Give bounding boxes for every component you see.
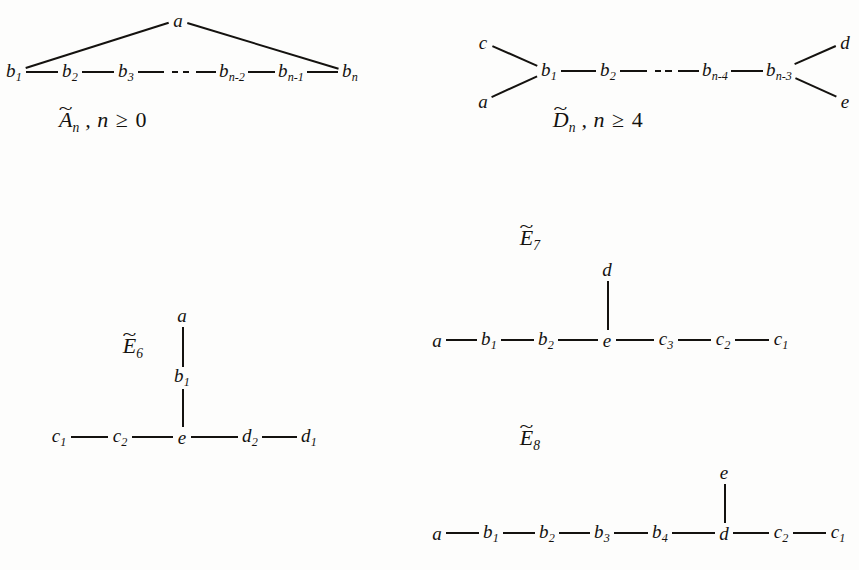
diagram-label-subscript: 8 — [533, 438, 540, 453]
node-label-base: b — [483, 521, 493, 542]
node-label-subscript: 2 — [782, 531, 788, 545]
node-label-subscript: 3 — [604, 531, 610, 545]
diagram-E8-tilde: edab1b2b3b4c2c1~E8 — [0, 0, 859, 570]
edge-E8-tilde-a-b1 — [446, 532, 479, 534]
node-label-subscript: 1 — [839, 531, 845, 545]
node-label-base: b — [652, 521, 662, 542]
node-E8-tilde-c2: c2 — [774, 522, 789, 544]
diagram-label-E8-tilde: ~E8 — [520, 427, 540, 452]
node-label-subscript: 2 — [549, 531, 555, 545]
node-E8-tilde-a: a — [432, 524, 442, 543]
node-E8-tilde-b1: b1 — [483, 522, 499, 544]
node-E8-tilde-c1: c1 — [831, 522, 846, 544]
node-label-base: b — [594, 521, 604, 542]
edge-E8-tilde-c2-c1 — [793, 532, 826, 534]
dynkin-diagram-figure: ab1b2b3bn-2bn-1bn~An , n ≥ 0cab1b2bn-4bn… — [0, 0, 859, 570]
node-label-base: c — [774, 521, 783, 542]
tilde-accent-group: ~E — [520, 427, 533, 449]
edge-E8-tilde-d-c2 — [733, 532, 769, 534]
node-label-base: c — [831, 521, 840, 542]
node-E8-tilde-b2: b2 — [539, 522, 555, 544]
node-label-subscript: 4 — [662, 531, 668, 545]
node-label-base: d — [719, 523, 729, 544]
edge-E8-tilde-b2-b3 — [559, 532, 590, 534]
edge-E8-tilde-b4-d — [672, 532, 715, 534]
node-E8-tilde-e: e — [720, 463, 729, 482]
node-E8-tilde-d: d — [719, 524, 729, 543]
node-label-base: a — [432, 523, 442, 544]
node-E8-tilde-b4: b4 — [652, 522, 668, 544]
node-label-base: e — [720, 462, 729, 483]
tilde-icon: ~ — [519, 418, 533, 436]
node-E8-tilde-b3: b3 — [594, 522, 610, 544]
edge-E8-tilde-b1-b2 — [503, 532, 535, 534]
node-label-base: b — [539, 521, 549, 542]
edge-E8-tilde-b3-b4 — [614, 532, 648, 534]
node-label-subscript: 1 — [493, 531, 499, 545]
edge-E8-tilde-e-d — [724, 484, 726, 523]
